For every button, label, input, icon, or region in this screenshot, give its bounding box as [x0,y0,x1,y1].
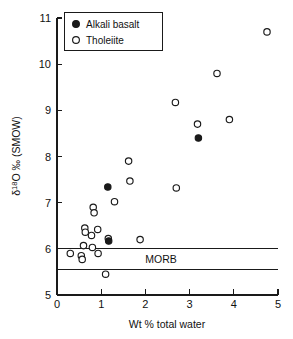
y-axis-title-superscript: 18 [10,182,19,190]
legend-label-tholeiite: Tholeiite [86,35,124,46]
data-point-alkali-basalt [195,135,201,141]
y-axis-title: δ18O ‰ (SMOW) [10,116,23,196]
scatter-plot-figure: 5 6 7 8 9 10 11 0 1 2 3 4 5 MORB [0,0,293,339]
y-ticklabel-5: 5 [45,289,51,301]
data-point-tholeiite [79,256,85,262]
data-point-tholeiite [125,158,131,164]
y-axis-title-element: O ‰ (SMOW) [10,116,22,181]
data-point-tholeiite [80,242,86,248]
data-point-tholeiite [173,185,179,191]
x-axis-ticks: 0 1 2 3 4 5 [54,289,281,310]
data-point-tholeiite [111,199,117,205]
legend-marker-alkali-basalt [73,21,80,28]
y-ticklabel-8: 8 [45,151,51,163]
data-point-tholeiite [264,29,270,35]
x-ticklabel-5: 5 [275,298,281,310]
data-point-tholeiite [214,70,220,76]
data-point-tholeiite [82,229,88,235]
legend-marker-tholeiite [73,37,80,44]
data-point-tholeiite [95,226,101,232]
x-axis-title: Wt % total water [129,318,206,330]
data-point-tholeiite [137,236,143,242]
data-point-tholeiite [95,250,101,256]
data-point-alkali-basalt [105,184,111,190]
x-ticklabel-0: 0 [54,298,60,310]
data-points-tholeiite [67,29,270,278]
legend-label-alkali-basalt: Alkali basalt [86,19,140,30]
y-ticklabel-11: 11 [40,12,51,24]
data-point-tholeiite [226,116,232,122]
data-point-tholeiite [127,178,133,184]
morb-band: MORB [57,249,278,270]
data-point-tholeiite [88,232,94,238]
y-ticklabel-9: 9 [45,104,51,116]
x-ticklabel-4: 4 [231,298,237,310]
x-ticklabel-2: 2 [142,298,148,310]
y-ticklabel-7: 7 [45,197,51,209]
data-point-tholeiite [194,121,200,127]
y-ticklabel-6: 6 [45,243,51,255]
data-point-tholeiite [172,99,178,105]
x-ticklabel-1: 1 [98,298,104,310]
data-point-tholeiite [102,271,108,277]
data-point-tholeiite [89,244,95,250]
morb-band-label: MORB [145,253,177,265]
y-ticklabel-10: 10 [39,58,51,70]
data-points-alkali-basalt [105,135,202,244]
data-point-alkali-basalt [106,238,112,244]
data-point-tholeiite [91,210,97,216]
x-ticklabel-3: 3 [187,298,193,310]
y-axis-ticks: 5 6 7 8 9 10 11 [39,12,62,301]
plot-svg: 5 6 7 8 9 10 11 0 1 2 3 4 5 MORB [0,0,293,339]
legend: Alkali basalt Tholeiite [64,12,162,50]
data-point-tholeiite [67,250,73,256]
